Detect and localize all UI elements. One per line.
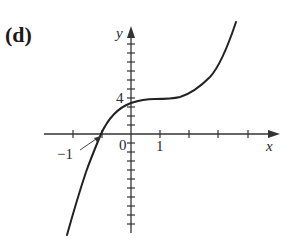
y-axis-arrow-icon — [127, 26, 135, 38]
panel-label: (d) — [5, 22, 32, 48]
x-axis-label: x — [265, 138, 273, 154]
x-tick-label-1: 1 — [156, 138, 164, 154]
plot-area: y x 4 0 1 −1 — [0, 0, 294, 244]
origin-label: 0 — [119, 137, 127, 153]
function-curve — [67, 22, 236, 235]
intercept-label: −1 — [57, 146, 73, 162]
x-axis-arrow-icon — [268, 130, 280, 138]
y-axis-label: y — [114, 25, 123, 41]
graph-figure: (d) — [0, 0, 294, 244]
y-tick-label-4: 4 — [116, 90, 124, 106]
